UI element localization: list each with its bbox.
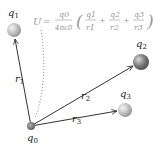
- label-q1: q1: [8, 7, 19, 20]
- label-q2: q2: [136, 38, 147, 51]
- prefactor-denominator: 4πε0: [54, 24, 73, 32]
- term2-den: r2: [110, 23, 119, 32]
- term3-num: q3: [134, 10, 144, 19]
- potential-energy-equation: U = q0 4πε0 ( q1 r1 + q2 r2 + q3 r3 ): [33, 10, 154, 32]
- label-r3: r3: [72, 113, 81, 126]
- open-paren: (: [76, 11, 83, 31]
- label-q0: q0: [27, 132, 38, 145]
- diagram-canvas: q1 q2 q3 q0 r1 r2 r3 U = q0 4πε0 ( q1 r1…: [0, 0, 156, 148]
- term1-num: q1: [86, 10, 96, 19]
- charge-q1-sphere: [7, 23, 21, 37]
- close-paren: ): [146, 11, 154, 31]
- dotted-connector: [35, 30, 44, 118]
- prefactor-numerator: q0: [59, 10, 69, 19]
- equation-equals: =: [43, 17, 51, 27]
- term1-den: r1: [86, 23, 95, 32]
- label-r1: r1: [15, 73, 24, 86]
- term2-num: q2: [110, 10, 120, 19]
- term3-den: r3: [134, 23, 143, 32]
- plus-2: +: [123, 16, 130, 25]
- charge-q0-sphere: [27, 122, 35, 130]
- plus-1: +: [99, 16, 106, 25]
- label-q3: q3: [120, 88, 131, 101]
- charge-q3-sphere: [118, 103, 132, 117]
- equation-lhs: U: [33, 16, 42, 27]
- charge-q2-sphere: [133, 54, 149, 70]
